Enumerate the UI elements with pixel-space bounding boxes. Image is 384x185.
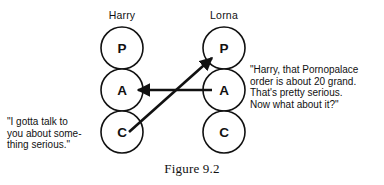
figure-canvas: Harry Lorna P A C P A C [0,0,384,185]
ego-letter-lorna-adult: A [219,83,229,98]
speech-text-harry: "I gotta talk to you about some- thing s… [7,116,82,151]
figure-caption: Figure 9.2 [0,161,384,177]
ego-letter-harry-parent: P [117,41,126,56]
ego-letter-harry-child: C [117,125,127,140]
speech-text-lorna: "Harry, that Pornopalace order is about … [250,64,358,110]
ego-letter-lorna-child: C [219,125,229,140]
ego-letter-harry-adult: A [117,83,127,98]
ego-letter-lorna-parent: P [219,41,228,56]
